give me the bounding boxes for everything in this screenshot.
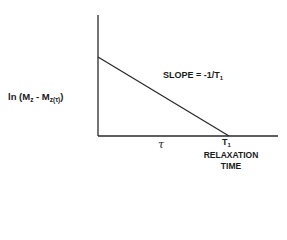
y-axis-label: ln (Mz - Mz(τ)) bbox=[8, 91, 63, 103]
x-axis-label-line1: RELAXATION bbox=[195, 150, 267, 161]
tau-tick-label: τ bbox=[158, 138, 164, 151]
x-axis-label-line2: TIME bbox=[195, 161, 267, 172]
x-axis-label: RELAXATION TIME bbox=[195, 150, 267, 172]
t1-tick-label: T1 bbox=[222, 137, 231, 148]
slope-annotation: SLOPE = -1/T1 bbox=[163, 70, 223, 81]
decay-line bbox=[98, 57, 229, 136]
